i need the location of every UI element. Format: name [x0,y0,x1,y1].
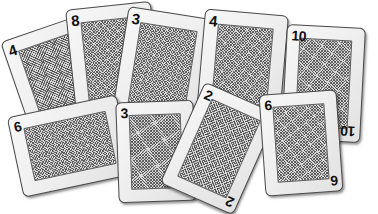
card-rank-top-left: 3 [120,106,128,120]
card-rank-top-left: 10 [291,28,306,43]
card-back-pattern [23,111,116,181]
card-rank-top-left: 8 [70,12,79,28]
card-rank-top-left: 4 [209,13,218,29]
card-rank-top-left: 6 [264,98,272,112]
card-back-pattern [272,103,329,182]
card-rank-top-left: 6 [12,119,22,134]
card-rank-bottom-right: 10 [340,124,355,139]
card-rank-bottom-right: 6 [330,174,338,188]
card-back-pattern [177,99,261,199]
card-rank-top-left: 4 [6,42,18,59]
playing-card-6[interactable]: 66 [259,89,344,196]
playing-card-scene: 44883344101066332266 [0,0,378,214]
